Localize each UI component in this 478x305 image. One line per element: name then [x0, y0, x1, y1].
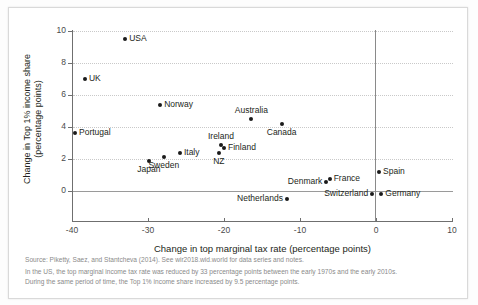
data-point-japan	[147, 159, 151, 163]
point-label-spain: Spain	[383, 167, 405, 176]
point-label-usa: USA	[129, 34, 146, 43]
point-label-japan: Japan	[137, 165, 160, 174]
x-tick--10	[300, 218, 301, 222]
x-tick-label--30: -30	[133, 226, 163, 235]
data-point-uk	[83, 77, 87, 81]
x-tick-0	[376, 218, 377, 222]
data-point-canada	[280, 122, 284, 126]
data-point-australia	[249, 117, 253, 121]
point-label-australia: Australia	[235, 106, 268, 115]
y-tick-label-0: 0	[44, 186, 66, 195]
gridline-y-8	[73, 63, 453, 64]
x-tick-label-10: 10	[437, 226, 467, 235]
gridline-y-2	[73, 159, 453, 160]
point-label-france: France	[334, 174, 360, 183]
y-tick-8	[68, 63, 73, 64]
point-label-denmark: Denmark	[288, 177, 322, 186]
point-label-switzerland: Switzerland	[324, 189, 368, 198]
x-zero-reference-line	[375, 30, 376, 221]
y-tick-label-10: 10	[44, 26, 66, 35]
y-axis-label-line2: (percentage points)	[33, 80, 43, 158]
data-point-spain	[377, 170, 381, 174]
y-tick-label-8: 8	[44, 58, 66, 67]
data-point-usa	[123, 37, 127, 41]
data-point-france	[328, 177, 332, 181]
x-tick--20	[224, 218, 225, 222]
point-label-uk: UK	[89, 74, 101, 83]
y-tick-4	[68, 127, 73, 128]
x-tick-label--40: -40	[57, 226, 87, 235]
point-label-finland: Finland	[228, 143, 256, 152]
point-label-nz: NZ	[213, 157, 224, 166]
data-point-denmark	[324, 180, 328, 184]
data-point-nz	[217, 151, 221, 155]
x-axis	[72, 221, 453, 222]
y-axis-label-line1: Change in Top 1% income share	[22, 54, 32, 184]
y-tick-label-6: 6	[44, 90, 66, 99]
point-label-portugal: Portugal	[79, 128, 111, 137]
gridline-y-4	[73, 127, 453, 128]
y-tick-label-4: 4	[44, 122, 66, 131]
data-point-portugal	[73, 131, 77, 135]
gridline-y-10	[73, 31, 453, 32]
data-point-netherlands	[285, 197, 289, 201]
x-tick-label--20: -20	[209, 226, 239, 235]
x-tick-label--10: -10	[285, 226, 315, 235]
data-point-germany	[379, 192, 383, 196]
y-axis	[72, 30, 73, 222]
point-label-ireland: Ireland	[208, 132, 234, 141]
data-point-italy	[178, 151, 182, 155]
y-tick-label-2: 2	[44, 154, 66, 163]
point-label-norway: Norway	[164, 100, 193, 109]
y-tick-2	[68, 159, 73, 160]
x-tick--30	[148, 218, 149, 222]
y-axis-label: Change in Top 1% income share (percentag…	[22, 39, 44, 199]
x-tick--40	[72, 218, 73, 222]
chart-notes: Source: Piketty, Saez, and Stantcheva (2…	[25, 255, 445, 286]
x-tick-10	[452, 218, 453, 222]
chart-page: 0246810 -40-30-20-10010 USAUKNorwayPortu…	[0, 0, 478, 305]
x-tick-label-0: 0	[361, 226, 391, 235]
data-point-norway	[158, 103, 162, 107]
gridline-y-6	[73, 95, 453, 96]
x-axis-label: Change in top marginal tax rate (percent…	[72, 243, 453, 254]
data-point-finland	[222, 146, 226, 150]
point-label-germany: Germany	[385, 189, 420, 198]
source-note: Source: Piketty, Saez, and Stantcheva (2…	[25, 255, 445, 264]
note-line-1: In the US, the top marginal income tax r…	[25, 267, 445, 276]
point-label-italy: Italy	[184, 148, 200, 157]
y-tick-10	[68, 31, 73, 32]
data-point-switzerland	[370, 192, 374, 196]
y-tick-6	[68, 95, 73, 96]
point-label-netherlands: Netherlands	[237, 194, 283, 203]
note-line-2: During the same period of time, the Top …	[25, 277, 445, 286]
point-label-canada: Canada	[267, 128, 297, 137]
y-tick-0	[68, 191, 73, 192]
